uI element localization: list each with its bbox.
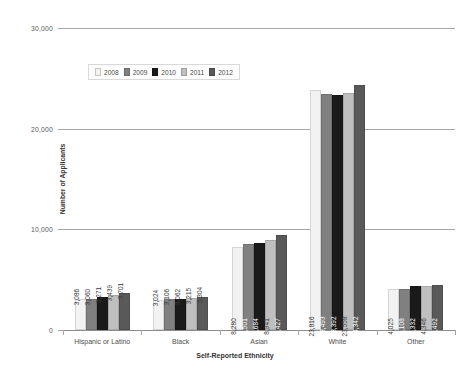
y-axis-tick-label: 20,000: [31, 125, 53, 132]
x-axis-title: Self-Reported Ethnicity: [0, 352, 470, 359]
x-axis-ticks: [63, 330, 455, 336]
bar-value-label: 3,271: [96, 287, 102, 304]
bar[interactable]: 23,816: [310, 90, 321, 330]
bar-value-label: 3,215: [185, 287, 191, 304]
legend-swatch-icon: [209, 68, 215, 76]
x-axis-category-label: Hispanic or Latino: [63, 338, 141, 345]
legend-swatch-icon: [181, 68, 187, 76]
bar[interactable]: 9,427: [276, 235, 287, 330]
x-axis-category-label: White: [298, 338, 376, 345]
bar-value-label: 3,062: [174, 289, 180, 306]
legend-item[interactable]: 2009: [124, 68, 148, 76]
bar[interactable]: 24,342: [354, 85, 365, 330]
legend-swatch-icon: [152, 68, 158, 76]
bar[interactable]: 8,941: [265, 240, 276, 330]
x-axis-tick-mark: [63, 330, 64, 335]
legend-item[interactable]: 2008: [95, 68, 119, 76]
x-axis-category-labels: Hispanic or LatinoBlackAsianWhiteOther: [63, 338, 455, 345]
legend-label: 2009: [133, 69, 148, 76]
bar-group: 23,81623,49323,39223,55824,342: [298, 28, 376, 330]
x-axis-tick-mark: [141, 330, 142, 335]
bar-value-label: 3,086: [74, 289, 80, 306]
y-axis-tick-labels: 010,00020,00030,000: [0, 28, 58, 330]
bar[interactable]: 3,701: [119, 293, 130, 330]
legend: 20082009201020112012: [88, 64, 240, 80]
legend-item[interactable]: 2012: [209, 68, 233, 76]
bar[interactable]: 3,304: [197, 297, 208, 330]
bar-value-label: 3,060: [85, 289, 91, 306]
legend-label: 2008: [104, 69, 119, 76]
bar-value-label: 3,106: [163, 288, 169, 305]
y-axis-tick-label: 10,000: [31, 226, 53, 233]
x-axis-tick-mark: [377, 330, 378, 335]
bar-value-label: 3,024: [152, 289, 158, 306]
x-axis-tick-mark: [298, 330, 299, 335]
legend-swatch-icon: [124, 68, 130, 76]
x-axis-tick-mark: [455, 330, 456, 335]
legend-label: 2011: [190, 69, 204, 76]
bar[interactable]: 3,060: [86, 299, 97, 330]
bar[interactable]: 3,439: [108, 295, 119, 330]
bar[interactable]: 23,558: [343, 93, 354, 330]
bar-chart: 010,00020,00030,000 Number of Applicants…: [0, 0, 470, 380]
bar-value-label: 3,439: [107, 285, 113, 302]
x-axis-tick-mark: [220, 330, 221, 335]
x-axis-category-label: Other: [377, 338, 455, 345]
bar-value-label: 3,304: [196, 287, 202, 304]
legend-item[interactable]: 2010: [152, 68, 176, 76]
legend-label: 2010: [161, 69, 176, 76]
bar[interactable]: 3,271: [97, 297, 108, 330]
y-axis-tick-label: 30,000: [31, 25, 53, 32]
x-axis-category-label: Asian: [220, 338, 298, 345]
bar-group: 4,0254,1084,3324,3464,492: [377, 28, 455, 330]
legend-item[interactable]: 2011: [181, 68, 204, 76]
bar[interactable]: 23,493: [321, 94, 332, 330]
y-axis-tick-label: 0: [49, 327, 53, 334]
bar[interactable]: 4,492: [432, 285, 443, 330]
legend-label: 2012: [218, 69, 233, 76]
legend-swatch-icon: [95, 68, 101, 76]
bar-value-label: 3,701: [118, 283, 124, 300]
bar[interactable]: 23,392: [332, 95, 343, 330]
x-axis-category-label: Black: [141, 338, 219, 345]
